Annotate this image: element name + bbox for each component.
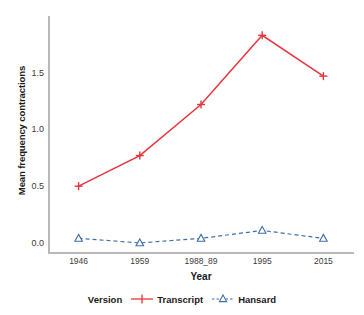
x-axis-title: Year <box>48 271 354 282</box>
x-axis-tick-labels: 194619591988_8919952015 <box>48 256 354 272</box>
transcript-marker-icon <box>131 293 153 305</box>
x-tick-label: 1946 <box>69 256 88 266</box>
x-tick-label: 1995 <box>253 256 272 266</box>
data-point-hansard[interactable] <box>320 234 328 241</box>
x-tick-label: 2015 <box>314 256 333 266</box>
y-axis-tick-labels: 0.00.51.01.5 <box>0 16 44 252</box>
legend-entry-transcript[interactable]: Transcript <box>131 293 203 305</box>
y-tick-label: 1.0 <box>4 124 44 134</box>
legend-title: Version <box>88 294 122 305</box>
data-point-transcript[interactable] <box>319 72 327 80</box>
legend-label-hansard: Hansard <box>238 294 276 305</box>
y-tick-label: 0.0 <box>4 238 44 248</box>
data-point-hansard[interactable] <box>197 234 205 241</box>
y-tick-label: 0.5 <box>4 181 44 191</box>
x-tick-label: 1959 <box>130 256 149 266</box>
x-tick-label: 1988_89 <box>184 256 217 266</box>
data-point-hansard[interactable] <box>258 226 266 233</box>
series-line-transcript <box>79 35 324 186</box>
legend-entry-hansard[interactable]: Hansard <box>212 293 276 305</box>
chart-legend: Version Transcript Hansard <box>0 293 364 305</box>
series-layer <box>48 16 354 252</box>
data-point-hansard[interactable] <box>75 234 83 241</box>
data-point-transcript[interactable] <box>75 182 83 190</box>
y-tick-label: 1.5 <box>4 68 44 78</box>
legend-label-transcript: Transcript <box>157 294 203 305</box>
plot-area <box>48 16 354 252</box>
line-chart: Mean frequency contractions 0.00.51.01.5… <box>0 0 364 315</box>
hansard-marker-icon <box>212 293 234 305</box>
x-axis-line <box>48 252 354 254</box>
